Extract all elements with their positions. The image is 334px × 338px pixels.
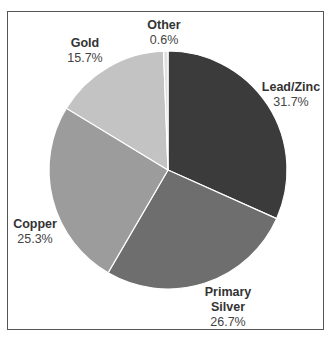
label-primary-silver-name-2: Silver bbox=[211, 300, 245, 314]
label-other-value: 0.6% bbox=[150, 33, 179, 47]
pie-slices bbox=[49, 51, 287, 289]
label-lead-zinc-value: 31.7% bbox=[273, 95, 308, 109]
label-copper-name: Copper bbox=[13, 217, 57, 231]
label-other-name: Other bbox=[147, 18, 180, 32]
label-lead-zinc-name: Lead/Zinc bbox=[262, 80, 320, 94]
label-primary-silver-value: 26.7% bbox=[210, 315, 245, 329]
label-gold-value: 15.7% bbox=[67, 51, 102, 65]
label-copper-value: 25.3% bbox=[17, 232, 52, 246]
pie-chart: Lead/Zinc 31.7% Primary Silver 26.7% Cop… bbox=[0, 0, 334, 338]
label-gold-name: Gold bbox=[71, 36, 99, 50]
label-primary-silver-name-1: Primary bbox=[205, 285, 252, 299]
